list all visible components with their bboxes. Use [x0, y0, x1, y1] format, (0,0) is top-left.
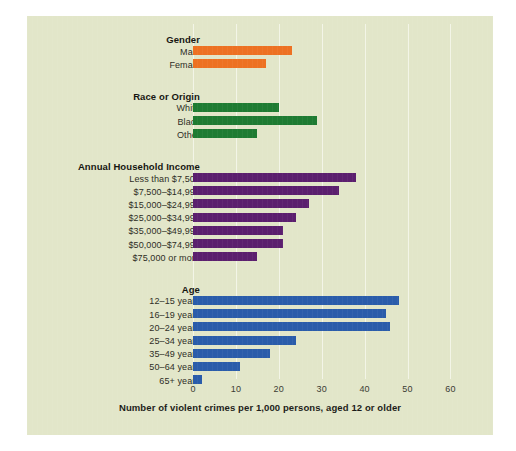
bar [193, 349, 270, 358]
bar [193, 362, 240, 371]
plot-area: GenderMaleFemaleRace or OriginWhiteBlack… [27, 16, 493, 435]
category-label: $7,500–$14,999 [134, 187, 200, 197]
chart-plate: GenderMaleFemaleRace or OriginWhiteBlack… [27, 16, 493, 435]
x-tick-label: 30 [316, 384, 326, 394]
bar [193, 103, 279, 112]
bar [193, 199, 309, 208]
bar [193, 239, 283, 248]
bar [193, 309, 386, 318]
bar [193, 59, 266, 68]
bar [193, 296, 399, 305]
category-label: $75,000 or more [132, 253, 200, 263]
bar [193, 252, 257, 261]
bar [193, 322, 390, 331]
x-tick-label: 60 [445, 384, 455, 394]
group-title-gender: Gender [166, 34, 200, 45]
category-label: $25,000–$34,999 [128, 213, 200, 223]
bar [193, 226, 283, 235]
bar [193, 129, 257, 138]
category-label: $15,000–$24,999 [128, 200, 200, 210]
bar [193, 46, 292, 55]
gridline-50 [408, 24, 409, 379]
category-label: $35,000–$49,999 [128, 226, 200, 236]
bar [193, 173, 356, 182]
figure-canvas: GenderMaleFemaleRace or OriginWhiteBlack… [0, 0, 516, 451]
bar [193, 336, 296, 345]
x-tick-label: 40 [359, 384, 369, 394]
bar [193, 213, 296, 222]
bar [193, 186, 339, 195]
x-axis-title: Number of violent crimes per 1,000 perso… [27, 402, 493, 413]
category-label: $50,000–$74,999 [128, 240, 200, 250]
gridline-60 [450, 24, 451, 379]
group-title-race-or-origin: Race or Origin [133, 91, 200, 102]
bar [193, 375, 202, 384]
group-title-age: Age [182, 284, 200, 295]
group-title-annual-household-income: Annual Household Income [78, 161, 200, 172]
x-tick-label: 20 [274, 384, 284, 394]
x-tick-label: 50 [402, 384, 412, 394]
x-tick-label: 10 [231, 384, 241, 394]
bar [193, 116, 317, 125]
category-label: Less than $7,500 [129, 174, 200, 184]
x-tick-label: 0 [190, 384, 195, 394]
